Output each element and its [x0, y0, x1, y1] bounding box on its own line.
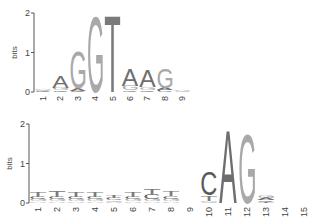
- logo-letter-T: T: [104, 0, 121, 115]
- x-tick-label: 2: [55, 96, 65, 101]
- bottom-logo: 012bits123456789101112131415AGCTAGCTAGCT…: [5, 108, 309, 224]
- x-tick-label: 7: [142, 96, 152, 101]
- logo-letter-C: C: [200, 164, 217, 202]
- top-logo: 012bits123456789CGACGACAGGTCGACGACAGGA: [10, 0, 191, 115]
- logo-letter-G: G: [238, 114, 256, 224]
- logo-letter-A: A: [139, 65, 156, 92]
- x-tick-label: 6: [125, 96, 135, 101]
- x-tick-label: 6: [128, 207, 138, 212]
- logo-letter-G: G: [157, 62, 174, 93]
- x-tick-label: 8: [160, 96, 170, 101]
- logo-letter-T: T: [29, 190, 47, 198]
- y-axis-label: bits: [5, 157, 14, 169]
- logo-letter-A: A: [52, 74, 68, 92]
- y-axis-label: bits: [10, 46, 19, 58]
- logo-letter-A: A: [174, 90, 191, 91]
- y-tick-label: 2: [20, 119, 25, 129]
- logo-letter-T: T: [143, 187, 161, 196]
- x-tick-label: 4: [90, 207, 100, 212]
- logo-letter-T: T: [105, 194, 123, 198]
- logo-letter-T: T: [48, 188, 66, 199]
- x-tick-label: 15: [299, 207, 309, 217]
- x-tick-label: 1: [38, 96, 48, 101]
- logo-letter-T: T: [162, 189, 180, 197]
- logo-letter-T: T: [67, 191, 85, 199]
- x-tick-label: 1: [33, 207, 43, 212]
- y-tick-label: 0: [25, 87, 30, 97]
- logo-letter-G: G: [87, 0, 104, 114]
- x-tick-label: 3: [71, 207, 81, 212]
- y-tick-label: 2: [25, 8, 30, 18]
- x-tick-label: 7: [147, 207, 157, 212]
- logo-letter-T: T: [86, 191, 104, 198]
- x-tick-label: 8: [166, 207, 176, 212]
- x-tick-label: 10: [204, 207, 214, 217]
- y-tick-label: 1: [25, 48, 30, 58]
- x-tick-label: 9: [177, 96, 187, 101]
- y-tick-label: 0: [20, 198, 25, 208]
- logo-letter-G: G: [257, 195, 275, 199]
- logo-letter-T: T: [124, 191, 142, 198]
- x-tick-label: 9: [185, 207, 195, 212]
- x-tick-label: 2: [52, 207, 62, 212]
- logo-letter-A: A: [122, 64, 139, 91]
- y-tick-label: 1: [20, 159, 25, 169]
- logo-letter-A: A: [219, 108, 237, 224]
- x-tick-label: 5: [109, 207, 119, 212]
- logo-letter-A: A: [35, 88, 52, 91]
- x-tick-label: 14: [280, 207, 290, 217]
- logo-letter-G: G: [70, 42, 87, 99]
- sequence-logo-figure: 012bits123456789CGACGACAGGTCGACGACAGGA01…: [0, 0, 320, 224]
- x-tick-label: 13: [261, 207, 271, 217]
